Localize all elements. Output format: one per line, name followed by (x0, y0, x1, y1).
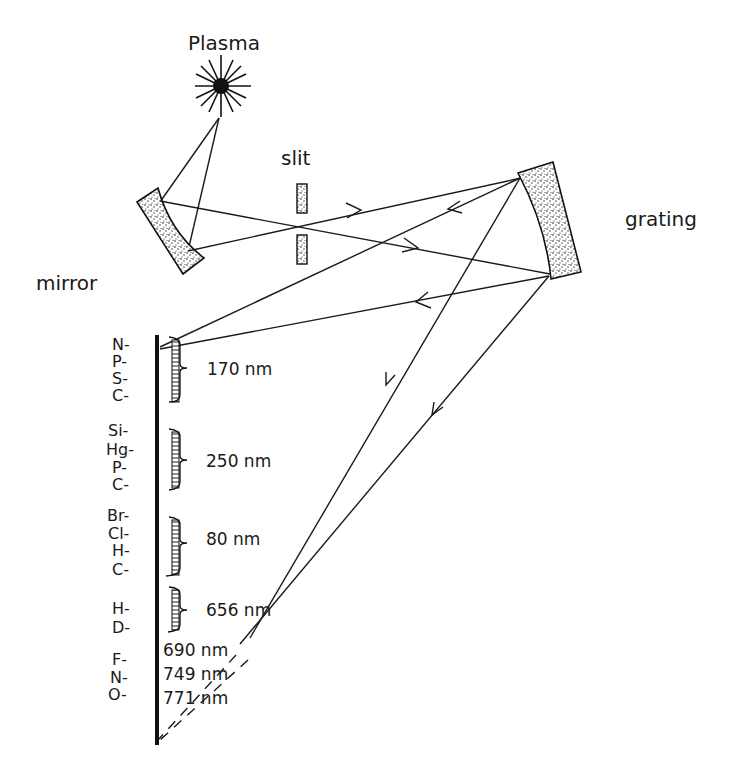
wavelength-690nm: 690 nm (163, 640, 228, 660)
svg-text:C-: C- (112, 386, 129, 405)
ray-grating-detector-2 (160, 276, 549, 349)
detector-array-250 (169, 429, 187, 490)
arrow-icon (386, 372, 395, 385)
wavelength-656nm: 656 nm (206, 600, 271, 620)
plasma-source-icon (195, 55, 251, 117)
svg-text:H-: H- (112, 599, 130, 618)
mirror-icon (137, 188, 204, 274)
svg-text:C-: C- (112, 475, 129, 494)
arrow-icon (402, 238, 418, 252)
ray-plasma-mirror-top (160, 118, 219, 202)
slit-lower-jaw (297, 235, 307, 264)
wavelength-80nm: 80 nm (206, 529, 260, 549)
wavelength-771nm: 771 nm (163, 688, 228, 708)
detector-array-170 (169, 337, 187, 402)
wavelength-749nm: 749 nm (163, 664, 228, 684)
mirror-label: mirror (36, 271, 98, 295)
grating-icon (518, 162, 581, 279)
element-labels: N- P- S- C- Si- Hg- P- C- Br- Cl- H- C- … (106, 335, 134, 704)
wavelength-170nm: 170 nm (207, 359, 272, 379)
svg-text:D-: D- (112, 618, 130, 637)
svg-text:Hg-: Hg- (106, 440, 134, 459)
wavelength-250nm: 250 nm (206, 451, 271, 471)
svg-text:C-: C- (112, 560, 129, 579)
plasma-label: Plasma (188, 31, 260, 55)
svg-text:Si-: Si- (108, 421, 128, 440)
ray-grating-detector-1 (160, 178, 520, 347)
ray-mirror-grating-lower (160, 201, 550, 274)
slit-label: slit (281, 146, 311, 170)
spectrometer-diagram: Plasma mirror slit grating N- (0, 0, 752, 779)
ray-grating-detector-3 (250, 178, 520, 638)
svg-text:H-: H- (112, 541, 130, 560)
svg-text:O-: O- (108, 685, 127, 704)
ray-plasma-mirror-bottom (188, 118, 219, 251)
detector-array-80 (166, 517, 187, 576)
svg-text:Br-: Br- (107, 506, 129, 525)
slit-upper-jaw (297, 184, 307, 213)
grating-label: grating (625, 207, 697, 231)
detector-array-656 (168, 587, 187, 632)
ray-grating-detector-4 (240, 276, 549, 644)
svg-text:F-: F- (112, 650, 127, 669)
